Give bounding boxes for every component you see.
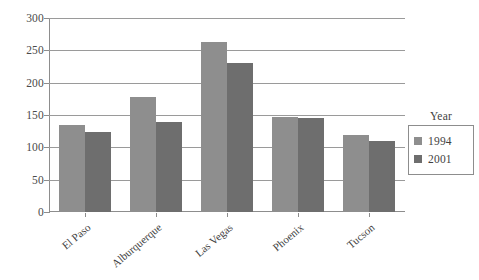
x-tick-mark [156, 213, 157, 217]
x-label-cell: Alburquerque [120, 213, 191, 280]
legend-label: 2001 [428, 153, 452, 165]
chart-figure: 050100150200250300 El PasoAlburquerqueLa… [0, 0, 479, 280]
x-label-cell: Phoenix [263, 213, 334, 280]
legend-swatch [414, 155, 422, 163]
x-label-cell: El Paso [49, 213, 120, 280]
x-tick-mark [227, 213, 228, 217]
bar [343, 135, 369, 212]
x-tick-label: Tucson [345, 221, 377, 251]
bar [156, 122, 182, 212]
bar-group [191, 18, 262, 212]
y-tick-label: 100 [4, 141, 44, 153]
bar-group [49, 18, 120, 212]
bar-group [120, 18, 191, 212]
x-axis-labels: El PasoAlburquerqueLas VegasPhoenixTucso… [49, 213, 405, 280]
y-tick-label: 150 [4, 109, 44, 121]
y-tick-label: 0 [4, 206, 44, 218]
legend-title: Year [408, 110, 474, 122]
bar [272, 117, 298, 212]
bar-group [263, 18, 334, 212]
bar [201, 42, 227, 212]
y-tick-label: 50 [4, 174, 44, 186]
bar [227, 63, 253, 212]
legend-item: 1994 [414, 132, 467, 150]
bar-group [334, 18, 405, 212]
legend-swatch [414, 137, 422, 145]
x-tick-mark [369, 213, 370, 217]
y-tick-label: 300 [4, 12, 44, 24]
x-tick-label: Las Vegas [193, 221, 235, 259]
x-label-cell: Las Vegas [191, 213, 262, 280]
y-tick-label: 200 [4, 77, 44, 89]
bar [130, 97, 156, 212]
x-tick-mark [85, 213, 86, 217]
bar [59, 125, 85, 212]
legend-item: 2001 [414, 150, 467, 168]
y-axis: 050100150200250300 [0, 18, 44, 212]
bar [298, 118, 324, 212]
x-label-cell: Tucson [334, 213, 405, 280]
bar-groups [49, 18, 405, 212]
legend-box: 19942001 [408, 125, 474, 175]
x-tick-label: Phoenix [271, 221, 306, 253]
y-tick-label: 250 [4, 44, 44, 56]
bar [85, 132, 111, 212]
legend: Year 19942001 [408, 110, 474, 175]
bar [369, 141, 395, 212]
legend-label: 1994 [428, 135, 452, 147]
x-tick-mark [298, 213, 299, 217]
x-tick-label: El Paso [59, 221, 92, 252]
